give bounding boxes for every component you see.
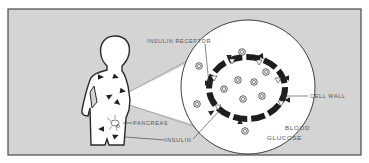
label-cell-wall: CELL WALL: [310, 93, 346, 99]
label-insulin-receptor: INSULIN RECEPTOR: [147, 38, 211, 44]
glucose-molecule-icon: [263, 69, 270, 76]
label-pancreas: PANCREAS: [133, 120, 168, 126]
glucose-molecule-icon: [194, 101, 201, 108]
glucose-molecule-icon: [251, 79, 258, 86]
glucose-molecule-icon: [221, 86, 228, 93]
insulin-diagram: INSULIN RECEPTOR CELL WALL PANCREAS INSU…: [0, 0, 369, 163]
label-insulin: INSULIN: [165, 137, 191, 143]
glucose-molecule-icon: [240, 96, 247, 103]
glucose-molecule-icon: [242, 128, 249, 135]
label-glucose: GLUCOSE: [267, 134, 302, 141]
label-blood: BLOOD: [285, 124, 310, 131]
glucose-molecule-icon: [196, 63, 203, 70]
glucose-molecule-icon: [239, 49, 246, 56]
glucose-molecule-icon: [235, 77, 242, 84]
glucose-molecule-icon: [259, 93, 266, 100]
